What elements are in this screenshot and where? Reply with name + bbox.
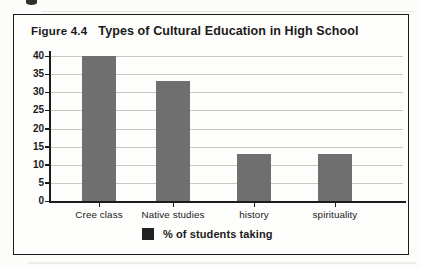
bar-chart: 0510152025303540Cree classNative studies… bbox=[14, 15, 408, 254]
legend-swatch bbox=[142, 228, 154, 240]
y-tick-label-0: 0 bbox=[18, 195, 44, 207]
y-axis-line bbox=[49, 51, 51, 201]
chart-legend: % of students taking bbox=[142, 228, 273, 240]
y-tick-label-5: 5 bbox=[18, 177, 44, 189]
x-tick-mark-3 bbox=[254, 203, 255, 207]
figure-frame: Figure 4.4 Types of Cultural Education i… bbox=[13, 14, 409, 255]
scan-artifact-line-bottom bbox=[28, 262, 416, 264]
x-axis-line bbox=[49, 201, 406, 203]
y-tick-label-40: 40 bbox=[18, 50, 44, 62]
y-tick-label-30: 30 bbox=[18, 86, 44, 98]
x-tick-mark-2 bbox=[173, 203, 174, 207]
category-label-spirituality: spirituality bbox=[287, 209, 383, 220]
y-tick-label-15: 15 bbox=[18, 141, 44, 153]
x-tick-mark-1 bbox=[99, 203, 100, 207]
legend-label: % of students taking bbox=[163, 228, 273, 240]
bar-history bbox=[237, 154, 271, 201]
bar-cree-class bbox=[82, 56, 116, 201]
x-tick-mark-4 bbox=[335, 203, 336, 207]
y-tick-label-20: 20 bbox=[18, 123, 44, 135]
y-tick-label-25: 25 bbox=[18, 104, 44, 116]
bar-native-studies bbox=[156, 81, 190, 201]
y-tick-label-10: 10 bbox=[18, 159, 44, 171]
y-tick-label-35: 35 bbox=[18, 68, 44, 80]
scan-artifact-line-top bbox=[42, 11, 414, 12]
bar-spirituality bbox=[318, 154, 352, 201]
scan-artifact-blob bbox=[26, 0, 37, 5]
